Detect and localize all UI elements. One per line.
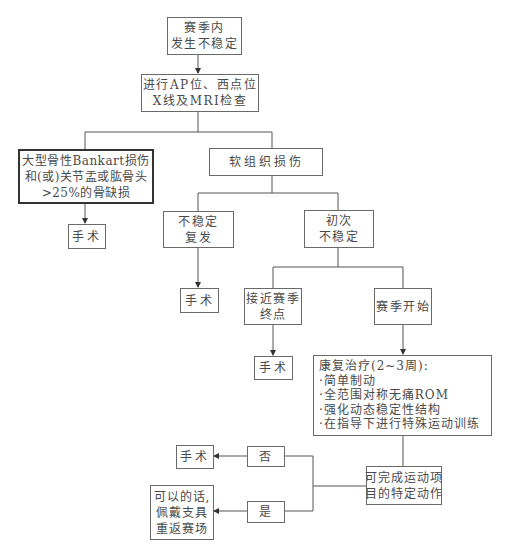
node-text: ·全范围对称无痛ROM	[319, 388, 449, 403]
node-rehab: 康复治疗(2~3周): ·简单制动 ·全范围对称无痛ROM ·强化动态稳定性结构…	[313, 355, 492, 436]
node-text: 否	[259, 449, 273, 465]
node-text: ·简单制动	[319, 374, 376, 389]
node-text: 不稳定	[319, 229, 360, 245]
node-return-to-play: 可以的话, 佩戴支具 重返赛场	[150, 485, 214, 540]
node-first-time: 初次 不稳定	[304, 210, 374, 248]
node-bony-bankart: 大型骨性Bankart损伤 和(或)关节盂或肱骨头 >25%的骨缺损	[18, 149, 154, 204]
node-text: 终点	[260, 307, 287, 323]
node-text: 大型骨性Bankart损伤	[22, 153, 149, 169]
node-season-start: 赛季开始	[374, 288, 432, 325]
node-text: 接近赛季	[246, 291, 300, 307]
node-text: 软组织损伤	[229, 154, 304, 170]
node-text: 和(或)关节盂或肱骨头	[25, 169, 148, 185]
node-text: 初次	[326, 213, 353, 229]
node-text: 重返赛场	[156, 521, 208, 537]
node-text: X线及MRI检查	[153, 93, 248, 109]
node-text: 可完成运动项	[365, 470, 443, 486]
node-text: 发生不稳定	[171, 36, 239, 52]
node-soft-tissue: 软组织损伤	[209, 148, 323, 176]
node-text: 赛季内	[184, 20, 225, 36]
node-sport-specific: 可完成运动项 目的特定动作	[366, 466, 442, 505]
node-text: 目的特定动作	[365, 486, 443, 502]
node-imaging: 进行AP位、西点位 X线及MRI检查	[141, 74, 259, 112]
node-in-season-instability: 赛季内 发生不稳定	[167, 17, 242, 55]
node-surgery-4: 手术	[176, 445, 214, 469]
node-text: >25%的骨缺损	[42, 185, 131, 201]
node-text: 赛季开始	[376, 299, 430, 315]
node-text: 不稳定	[178, 214, 219, 230]
node-text: 康复治疗(2~3周):	[319, 359, 429, 374]
node-surgery-3: 手术	[254, 356, 293, 380]
node-text: 是	[259, 504, 273, 520]
node-text: 佩戴支具	[156, 505, 208, 521]
node-text: 手术	[185, 293, 215, 309]
node-yes: 是	[247, 501, 285, 523]
node-text: ·在指导下进行特殊运动训练	[319, 417, 480, 432]
node-text: 手术	[180, 449, 210, 465]
node-text: 可以的话,	[154, 489, 211, 505]
node-no: 否	[247, 446, 285, 467]
node-text: 复发	[185, 230, 212, 246]
node-surgery-1: 手术	[68, 224, 106, 249]
node-text: 手术	[72, 229, 102, 245]
node-surgery-2: 手术	[180, 288, 219, 313]
node-text: ·强化动态稳定性结构	[319, 403, 441, 418]
node-text: 手术	[259, 360, 289, 376]
node-near-season-end: 接近赛季 终点	[244, 288, 302, 325]
node-recurrent: 不稳定 复发	[163, 211, 234, 248]
node-text: 进行AP位、西点位	[143, 77, 257, 93]
